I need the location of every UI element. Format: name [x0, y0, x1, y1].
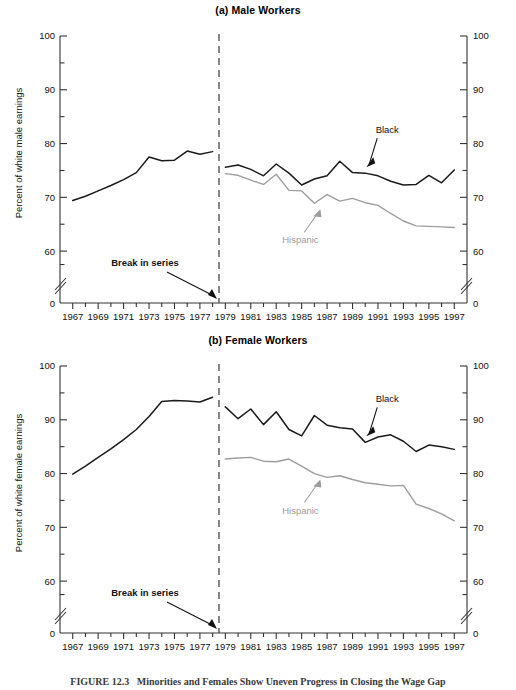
- x-tick-label: 1985: [291, 311, 312, 322]
- series-line-black-pre-break: [73, 151, 213, 200]
- male-workers-line-chart: 6060707080809090100100001967196919711973…: [0, 18, 516, 328]
- series-label-hispanic: Hispanic: [282, 234, 319, 245]
- y-tick-label: 100: [39, 30, 55, 41]
- x-tick-label: 1975: [164, 311, 185, 322]
- y-zero-label-right: 0: [473, 298, 478, 309]
- panel-title-male: (a) Male Workers: [0, 4, 516, 16]
- y-axis-title: Percent of white female earnings: [13, 414, 24, 553]
- x-tick-label: 1995: [418, 311, 439, 322]
- y-tick-label: 80: [44, 468, 55, 479]
- x-tick-label: 1977: [189, 311, 210, 322]
- x-tick-label: 1967: [62, 641, 83, 652]
- series-line-black: [225, 161, 454, 185]
- x-tick-label: 1985: [291, 641, 312, 652]
- x-tick-label: 1983: [266, 311, 287, 322]
- x-tick-label: 1973: [138, 641, 159, 652]
- y-tick-label: 80: [44, 138, 55, 149]
- x-tick-label: 1997: [444, 311, 465, 322]
- series-line-hispanic: [225, 457, 454, 520]
- figure-caption-label: FIGURE 12.3: [70, 676, 129, 687]
- x-tick-label: 1997: [444, 641, 465, 652]
- y-tick-label-right: 90: [473, 84, 484, 95]
- x-tick-label: 1967: [62, 311, 83, 322]
- x-tick-label: 1993: [393, 641, 414, 652]
- arrow-icon: [313, 480, 321, 488]
- x-tick-label: 1969: [88, 311, 109, 322]
- x-tick-label: 1979: [215, 311, 236, 322]
- y-tick-label: 90: [44, 414, 55, 425]
- arrow-icon: [208, 289, 217, 299]
- break-in-series-label: Break in series: [111, 257, 179, 268]
- x-tick-label: 1975: [164, 641, 185, 652]
- x-tick-label: 1991: [367, 641, 388, 652]
- y-zero-label: 0: [50, 628, 55, 639]
- y-tick-label-right: 70: [473, 522, 484, 533]
- x-tick-label: 1971: [113, 641, 134, 652]
- y-tick-label: 70: [44, 192, 55, 203]
- series-label-black: Black: [376, 393, 399, 404]
- x-tick-label: 1991: [367, 311, 388, 322]
- x-tick-label: 1979: [215, 641, 236, 652]
- series-label-hispanic: Hispanic: [282, 505, 319, 516]
- series-line-black: [225, 407, 454, 452]
- y-tick-label-right: 90: [473, 414, 484, 425]
- x-tick-label: 1981: [240, 311, 261, 322]
- y-axis-title: Percent of white male earnings: [13, 88, 24, 219]
- x-tick-label: 1995: [418, 641, 439, 652]
- x-tick-label: 1987: [317, 641, 338, 652]
- y-zero-label: 0: [50, 298, 55, 309]
- x-tick-label: 1989: [342, 311, 363, 322]
- figure-caption: FIGURE 12.3 Minorities and Females Show …: [0, 676, 516, 690]
- x-tick-label: 1983: [266, 641, 287, 652]
- y-tick-label: 100: [39, 360, 55, 371]
- y-tick-label-right: 80: [473, 138, 484, 149]
- figure-container: (a) Male Workers 60607070808090901001000…: [0, 0, 516, 690]
- y-tick-label-right: 80: [473, 468, 484, 479]
- y-tick-label-right: 100: [473, 30, 489, 41]
- y-tick-label-right: 60: [473, 576, 484, 587]
- figure-caption-text: Minorities and Females Show Uneven Progr…: [137, 676, 446, 687]
- x-tick-label: 1977: [189, 641, 210, 652]
- y-tick-label: 60: [44, 576, 55, 587]
- y-tick-label: 90: [44, 84, 55, 95]
- arrow-icon: [313, 209, 321, 217]
- female-workers-line-chart: 6060707080809090100100001967196919711973…: [0, 348, 516, 658]
- x-tick-label: 1969: [88, 641, 109, 652]
- x-tick-label: 1981: [240, 641, 261, 652]
- y-tick-label-right: 70: [473, 192, 484, 203]
- y-zero-label-right: 0: [473, 628, 478, 639]
- x-tick-label: 1987: [317, 311, 338, 322]
- y-tick-label-right: 100: [473, 360, 489, 371]
- y-tick-label-right: 60: [473, 246, 484, 257]
- arrow-icon: [208, 619, 217, 629]
- x-tick-label: 1973: [138, 311, 159, 322]
- chart-panel-male: (a) Male Workers 60607070808090901001000…: [0, 0, 516, 345]
- series-label-black: Black: [376, 124, 399, 135]
- break-in-series-label: Break in series: [111, 587, 179, 598]
- y-tick-label: 70: [44, 522, 55, 533]
- chart-panel-female: (b) Female Workers 606070708080909010010…: [0, 330, 516, 675]
- series-line-black-pre-break: [73, 397, 213, 474]
- panel-title-female: (b) Female Workers: [0, 334, 516, 346]
- y-tick-label: 60: [44, 246, 55, 257]
- x-tick-label: 1993: [393, 311, 414, 322]
- x-tick-label: 1971: [113, 311, 134, 322]
- x-tick-label: 1989: [342, 641, 363, 652]
